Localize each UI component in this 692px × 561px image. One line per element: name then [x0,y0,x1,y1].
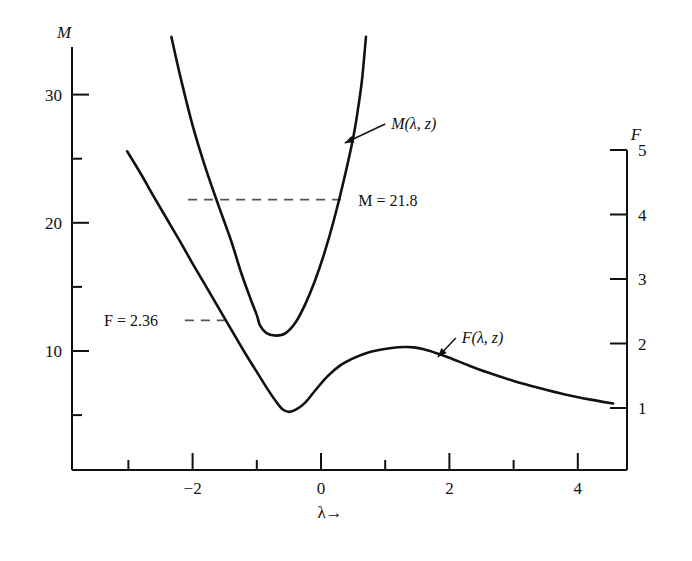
x-axis-tick-labels: −2024 [184,479,583,498]
left-tick-label: 30 [45,86,62,105]
data-curves [127,37,613,412]
right-axis-ticks [610,150,627,408]
axes-group [72,47,627,470]
left-axis-title: M [56,23,72,42]
annotation-labels: M = 21.8F = 2.36M(λ, z)F(λ, z) [104,115,503,347]
x-tick-label: 2 [445,479,454,498]
chart-svg: 102030 12345 −2024 M F λ→ M = 21.8F = 2.… [0,0,692,561]
right-tick-label: 4 [638,206,647,225]
x-tick-label: 4 [574,479,583,498]
right-axis-tick-labels: 12345 [638,141,647,418]
figure-canvas: 102030 12345 −2024 M F λ→ M = 21.8F = 2.… [0,0,692,561]
x-axis-title: λ→ [317,503,342,522]
callout-arrows [345,124,456,357]
left-axis-ticks [72,95,89,416]
left-tick-label: 20 [45,214,62,233]
right-tick-label: 3 [638,270,647,289]
left-tick-label: 10 [45,342,62,361]
right-tick-label: 2 [638,335,647,354]
x-tick-label: 0 [317,479,326,498]
m-curve-callout-label: M(λ, z) [390,115,436,133]
f-threshold-label: F = 2.36 [104,312,158,329]
annotation-lines [185,200,345,321]
curve-M [171,37,366,336]
curve-F [127,151,613,412]
left-axis-tick-labels: 102030 [45,86,62,361]
f-curve-callout-label: F(λ, z) [461,329,504,347]
x-tick-label: −2 [184,479,202,498]
right-tick-label: 1 [638,399,647,418]
x-axis-ticks [128,453,577,470]
right-axis-title: F [630,125,642,144]
m-threshold-label: M = 21.8 [358,192,417,209]
